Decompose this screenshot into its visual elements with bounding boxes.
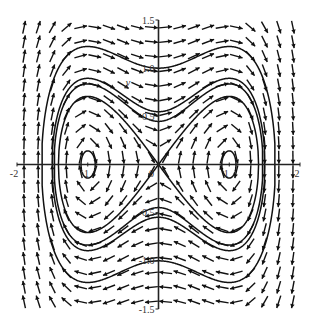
field-arrow: [64, 151, 68, 164]
field-arrow: [290, 266, 294, 279]
field-arrow: [246, 298, 256, 306]
field-arrow: [36, 151, 40, 164]
field-arrow: [246, 253, 254, 263]
field-arrow: [204, 195, 212, 205]
field-arrow: [22, 35, 26, 48]
field-arrow: [74, 285, 87, 289]
field-arrow: [21, 266, 25, 279]
field-arrow: [135, 165, 139, 178]
field-arrow: [89, 111, 101, 117]
field-arrow: [62, 37, 71, 46]
axes: -2-10121.51.00.5-0.5-1.0-1.5y: [10, 15, 300, 315]
field-arrow: [22, 107, 26, 120]
field-arrow: [88, 25, 101, 29]
field-arrow: [159, 227, 172, 231]
field-arrow: [131, 40, 143, 45]
field-arrow: [159, 299, 172, 303]
field-arrow: [290, 252, 294, 265]
field-arrow: [50, 65, 55, 77]
field-arrow: [136, 151, 140, 164]
field-arrow: [22, 50, 26, 63]
field-arrow: [88, 300, 101, 304]
field-arrow: [190, 195, 198, 205]
field-arrow: [36, 194, 40, 207]
field-arrow: [74, 39, 87, 43]
field-arrow: [262, 282, 268, 294]
field-arrow: [248, 180, 252, 193]
field-arrow: [231, 196, 241, 204]
field-arrow: [262, 267, 268, 279]
field-arrow: [231, 212, 242, 219]
field-arrow: [22, 165, 26, 178]
field-arrow: [104, 110, 114, 119]
field-arrow: [290, 281, 294, 294]
field-arrow: [262, 252, 267, 264]
field-arrow: [117, 300, 129, 305]
field-arrow: [174, 82, 186, 88]
field-arrow: [36, 35, 41, 47]
field-arrow: [246, 37, 255, 46]
field-arrow: [216, 111, 228, 117]
field-arrow: [216, 285, 229, 289]
field-arrow: [119, 195, 127, 205]
field-arrow: [188, 39, 200, 44]
x-tick-label: 0: [149, 168, 154, 179]
field-arrow: [145, 25, 158, 29]
field-arrow: [103, 39, 115, 44]
field-arrow: [276, 209, 280, 222]
field-arrow: [174, 68, 186, 73]
field-arrow: [131, 54, 143, 59]
field-arrow: [62, 23, 72, 31]
field-arrow: [74, 256, 86, 261]
field-arrow: [202, 284, 214, 289]
field-arrow: [188, 284, 200, 289]
field-arrow: [191, 165, 195, 178]
field-arrow: [233, 181, 241, 192]
field-arrow: [118, 241, 129, 248]
field-arrow: [35, 296, 40, 308]
field-arrow: [262, 209, 266, 222]
x-tick-label: -1: [81, 168, 89, 179]
field-arrow: [177, 165, 181, 178]
field-arrow: [291, 194, 295, 207]
field-arrow: [131, 286, 143, 291]
field-arrow: [22, 93, 26, 106]
field-arrow: [22, 136, 26, 149]
field-arrow: [192, 151, 196, 164]
field-arrow: [119, 123, 127, 133]
field-arrow: [37, 79, 41, 92]
y-tick-label: 1.5: [142, 15, 155, 26]
field-arrow: [159, 97, 172, 101]
field-arrow: [51, 93, 55, 106]
field-arrow: [277, 35, 282, 47]
field-arrow: [276, 180, 280, 193]
field-arrow: [159, 125, 171, 130]
field-arrow: [117, 285, 129, 290]
field-arrow: [89, 125, 100, 132]
field-arrow: [203, 211, 213, 220]
field-arrow: [49, 282, 55, 294]
x-tick-label: -2: [10, 168, 18, 179]
field-arrow: [188, 241, 199, 248]
field-arrow: [159, 39, 172, 43]
field-arrow: [74, 25, 87, 29]
field-arrow: [159, 270, 172, 274]
field-arrow: [21, 295, 25, 308]
field-arrow: [230, 26, 243, 30]
field-arrow: [203, 96, 214, 104]
field-arrow: [36, 252, 40, 265]
field-arrow: [22, 79, 26, 92]
field-arrow: [231, 124, 241, 132]
field-arrow: [277, 136, 281, 149]
field-arrow: [104, 226, 115, 234]
field-arrow: [35, 267, 39, 280]
field-arrow: [145, 242, 158, 246]
field-arrow: [49, 296, 55, 307]
field-arrow: [216, 68, 229, 72]
field-arrow: [145, 98, 158, 102]
field-arrow: [74, 270, 87, 275]
field-arrow: [202, 24, 214, 29]
field-arrow: [159, 25, 172, 29]
field-arrow: [262, 223, 266, 236]
field-arrow: [230, 69, 242, 74]
